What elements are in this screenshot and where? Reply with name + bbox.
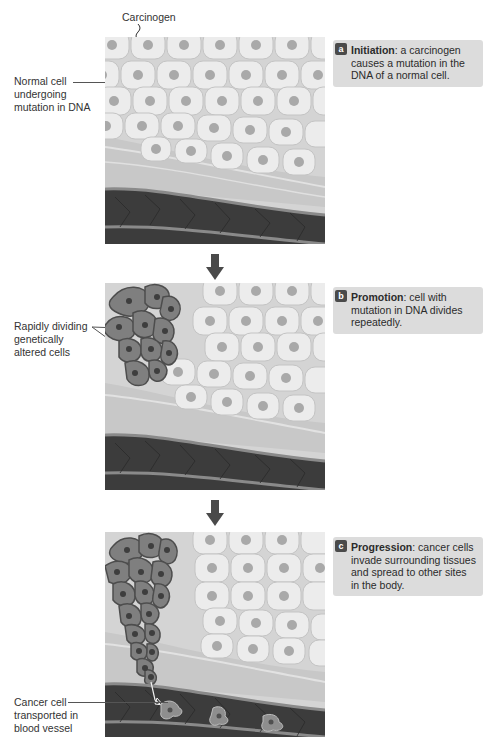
step-badge-b: b — [335, 290, 347, 302]
progression-callout: c Progression: cancer cells invade surro… — [333, 537, 483, 596]
promotion-stage-title: Promotion — [351, 291, 404, 303]
progression-illustration — [105, 532, 325, 737]
initiation-illustration — [105, 37, 325, 244]
progression-stage-title: Progression — [351, 541, 412, 553]
promotion-callout: b Promotion: cell with mutation in DNA d… — [333, 287, 483, 334]
down-arrow-icon — [206, 254, 224, 280]
cancer-cell-leader-line — [68, 702, 168, 703]
carcinogen-label: Carcinogen — [122, 11, 176, 24]
initiation-stage-title: Initiation — [351, 44, 395, 56]
down-arrow-icon — [206, 500, 224, 526]
rapidly-dividing-label: Rapidly dividing genetically altered cel… — [14, 320, 96, 359]
step-badge-a: a — [335, 43, 347, 55]
promotion-illustration — [105, 283, 325, 490]
initiation-callout: a Initiation: a carcinogen causes a muta… — [333, 40, 483, 87]
normal-cell-label: Normal cell undergoing mutation in DNA — [14, 75, 104, 114]
step-badge-c: c — [335, 540, 347, 552]
